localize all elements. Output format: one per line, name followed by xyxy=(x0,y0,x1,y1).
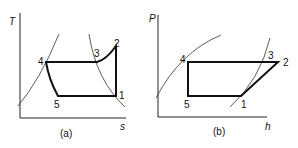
ts-cycle-path xyxy=(46,46,116,96)
ph-y-axis-label: P xyxy=(149,13,156,24)
ph-axes xyxy=(158,15,267,117)
ph-point-1: 1 xyxy=(241,99,247,110)
ts-y-axis-label: T xyxy=(9,16,16,27)
saturated-liquid-curve xyxy=(18,34,59,106)
ts-point-1: 1 xyxy=(119,90,125,101)
ph-diagram: P h 4 3 2 1 5 (b) xyxy=(149,13,289,137)
ts-point-3: 3 xyxy=(94,48,100,59)
ph-point-2: 2 xyxy=(283,57,289,68)
ph-caption: (b) xyxy=(213,126,225,137)
ts-point-4: 4 xyxy=(38,56,44,67)
cycle-diagrams: T s 4 3 2 1 5 (a) P h 4 3 2 1 5 (b) xyxy=(0,0,298,148)
ph-x-axis-label: h xyxy=(265,121,271,132)
ph-point-5: 5 xyxy=(184,99,190,110)
ts-point-2: 2 xyxy=(114,38,120,49)
ts-diagram: T s 4 3 2 1 5 (a) xyxy=(9,13,126,139)
ts-point-5: 5 xyxy=(54,99,60,110)
ts-caption: (a) xyxy=(60,128,72,139)
ph-cycle-path xyxy=(188,62,278,96)
ph-point-3: 3 xyxy=(268,50,274,61)
ts-axes xyxy=(20,13,126,118)
ts-x-axis-label: s xyxy=(120,121,125,132)
ph-point-4: 4 xyxy=(180,54,186,65)
